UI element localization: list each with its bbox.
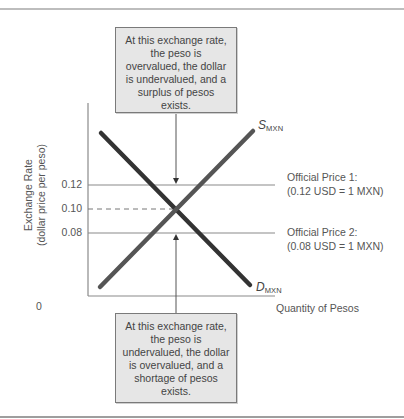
- origin-label: 0: [36, 300, 42, 312]
- supply-label: SMXN: [258, 118, 283, 133]
- y-tick-0-10: 0.10: [52, 202, 82, 214]
- callout-text: exists.: [120, 99, 232, 112]
- official-price-1-value: (0.12 USD = 1 MXN): [287, 184, 384, 198]
- callout-text: is overvalued, and a: [120, 359, 232, 372]
- x-axis-title: Quantity of Pesos: [276, 302, 359, 314]
- demand-label: DMXN: [256, 280, 282, 295]
- callout-text: the peso is: [120, 333, 232, 346]
- demand-label-sub: MXN: [265, 286, 282, 295]
- callout-text: overvalued, the dollar: [120, 60, 232, 73]
- overvalued-callout: At this exchange rate, the peso is overv…: [115, 27, 237, 113]
- supply-label-main: S: [258, 118, 266, 132]
- y-axis-title-line1: Exchange Rate: [22, 130, 35, 260]
- official-price-1-label: Official Price 1: (0.12 USD = 1 MXN): [287, 170, 384, 198]
- y-tick-0-08: 0.08: [52, 226, 82, 238]
- callout-text: At this exchange rate,: [120, 34, 232, 47]
- supply-label-sub: MXN: [266, 124, 283, 133]
- callout-text: the peso is: [120, 47, 232, 60]
- y-axis-title-line2: (dollar price per peso): [35, 130, 48, 260]
- undervalued-callout: At this exchange rate, the peso is under…: [115, 313, 237, 403]
- bottom-rule: [0, 416, 404, 418]
- callout-text: At this exchange rate,: [120, 320, 232, 333]
- y-axis-title: Exchange Rate (dollar price per peso): [22, 130, 48, 260]
- callout-text: shortage of pesos: [120, 372, 232, 385]
- callout-text: surplus of pesos: [120, 86, 232, 99]
- official-price-1-title: Official Price 1:: [287, 170, 384, 184]
- callout-text: is undervalued, and a: [120, 73, 232, 86]
- callout-text: exists.: [120, 385, 232, 398]
- official-price-2-value: (0.08 USD = 1 MXN): [287, 239, 384, 253]
- official-price-2-title: Official Price 2:: [287, 225, 384, 239]
- official-price-2-label: Official Price 2: (0.08 USD = 1 MXN): [287, 225, 384, 253]
- y-tick-0-12: 0.12: [52, 178, 82, 190]
- demand-label-main: D: [256, 280, 265, 294]
- callout-text: undervalued, the dollar: [120, 346, 232, 359]
